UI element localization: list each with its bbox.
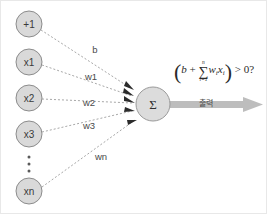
formula-bias: b xyxy=(181,63,187,75)
input-node-x3[interactable]: x3 xyxy=(16,121,42,147)
formula-sum-lower: i=1 xyxy=(199,77,209,83)
weight-label-w3: w3 xyxy=(82,120,95,131)
formula-close-paren: ) xyxy=(225,59,232,84)
formula-weight: w xyxy=(208,63,215,75)
activation-formula: (b + n ∑ i=1 wixi) > 0? xyxy=(164,59,264,83)
input-node-x1[interactable]: x1 xyxy=(16,49,42,75)
diagram-canvas: +1 x1 x2 x3 xn Σ b w1 xyxy=(1,1,267,214)
node-label: x2 xyxy=(24,93,35,104)
summation-symbol: Σ xyxy=(149,97,157,112)
perceptron-diagram: +1 x1 x2 x3 xn Σ b w1 xyxy=(0,0,267,214)
weight-label-w1: w1 xyxy=(84,71,97,82)
node-label: +1 xyxy=(23,19,35,30)
output-label: 출력 xyxy=(187,97,225,108)
vertical-ellipsis-icon xyxy=(28,156,31,173)
weight-label-wn: wn xyxy=(94,151,107,162)
arrowhead-bias xyxy=(124,81,134,90)
arrowhead-w3 xyxy=(124,107,135,112)
node-label: x3 xyxy=(24,129,35,140)
arrowhead-w2 xyxy=(124,96,135,103)
formula-comparison: > 0? xyxy=(235,63,254,75)
input-node-bias[interactable]: +1 xyxy=(16,11,42,37)
input-node-x2[interactable]: x2 xyxy=(16,85,42,111)
formula-plus: + xyxy=(190,63,196,75)
formula-summation: n ∑ i=1 xyxy=(199,60,209,83)
node-label: x1 xyxy=(24,57,35,68)
input-node-xn[interactable]: xn xyxy=(16,178,42,204)
arrowhead-wn xyxy=(127,120,137,125)
edges-group xyxy=(41,30,135,187)
weight-label-b: b xyxy=(92,44,97,55)
node-label: xn xyxy=(24,186,35,197)
weight-label-w2: w2 xyxy=(82,97,95,108)
summation-node[interactable]: Σ xyxy=(136,87,170,121)
